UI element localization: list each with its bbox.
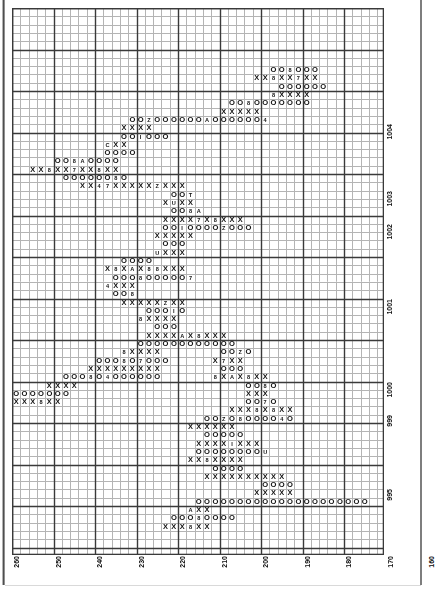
pattern-cell: O	[319, 83, 327, 91]
pattern-cell: X	[244, 473, 252, 481]
pattern-cell: O	[120, 274, 128, 282]
pattern-cell: A	[78, 157, 86, 165]
pattern-cell: 4	[278, 415, 286, 423]
pattern-cell: O	[137, 257, 145, 265]
pattern-cell: X	[228, 456, 236, 464]
pattern-cell: 4	[103, 282, 111, 290]
pattern-cell: O	[195, 448, 203, 456]
pattern-cell: X	[170, 265, 178, 273]
pattern-cell: O	[161, 274, 169, 282]
pattern-symbol-layer: OO8OOOXX8XX7XXOOOOOO8XXXXOO8OOOOOOOXXXXX…	[12, 8, 384, 555]
pattern-cell: X	[211, 440, 219, 448]
pattern-cell: O	[170, 323, 178, 331]
pattern-cell: 8	[244, 99, 252, 107]
pattern-cell: X	[253, 489, 261, 497]
column-label: 180	[345, 556, 352, 568]
pattern-cell: X	[228, 406, 236, 414]
pattern-cell: 8	[95, 166, 103, 174]
pattern-cell: O	[103, 157, 111, 165]
pattern-cell: 7	[137, 357, 145, 365]
pattern-cell: O	[78, 373, 86, 381]
pattern-cell: X	[220, 332, 228, 340]
pattern-cell: O	[170, 191, 178, 199]
pattern-cell: O	[253, 498, 261, 506]
row-label: 1001	[386, 299, 393, 315]
pattern-cell: X	[137, 365, 145, 373]
pattern-cell: 8	[112, 265, 120, 273]
pattern-cell: O	[261, 415, 269, 423]
pattern-cell: X	[203, 506, 211, 514]
pattern-cell: O	[153, 340, 161, 348]
pattern-cell: X	[294, 91, 302, 99]
pattern-cell: 8	[37, 398, 45, 406]
pattern-cell: X	[278, 91, 286, 99]
pattern-cell: X	[211, 357, 219, 365]
pattern-cell: O	[344, 498, 352, 506]
pattern-cell: O	[236, 99, 244, 107]
pattern-cell: X	[29, 166, 37, 174]
pattern-cell: I	[170, 307, 178, 315]
pattern-cell: X	[161, 523, 169, 531]
pattern-cell: X	[303, 91, 311, 99]
pattern-cell: X	[128, 348, 136, 356]
pattern-cell: X	[153, 299, 161, 307]
pattern-cell: X	[203, 523, 211, 531]
pattern-cell: O	[137, 373, 145, 381]
pattern-cell: O	[303, 99, 311, 107]
pattern-cell: O	[95, 157, 103, 165]
pattern-cell: O	[153, 274, 161, 282]
pattern-cell: O	[220, 498, 228, 506]
pattern-cell: X	[303, 74, 311, 82]
pattern-cell: X	[220, 440, 228, 448]
pattern-cell: X	[178, 232, 186, 240]
pattern-cell: X	[195, 423, 203, 431]
pattern-cell: O	[211, 514, 219, 522]
pattern-cell: O	[244, 415, 252, 423]
pattern-cell: 4	[261, 116, 269, 124]
pattern-cell: U	[153, 249, 161, 257]
pattern-cell: O	[186, 224, 194, 232]
pattern-cell: O	[178, 274, 186, 282]
pattern-cell: 8	[128, 290, 136, 298]
pattern-cell: X	[278, 489, 286, 497]
pattern-cell: X	[78, 166, 86, 174]
pattern-cell: 8	[253, 406, 261, 414]
pattern-cell: X	[29, 398, 37, 406]
pattern-cell: X	[145, 315, 153, 323]
pattern-cell: O	[303, 66, 311, 74]
pattern-cell: X	[220, 216, 228, 224]
pattern-cell: O	[161, 357, 169, 365]
pattern-cell: O	[62, 157, 70, 165]
pattern-cell: X	[253, 440, 261, 448]
pattern-cell: O	[112, 274, 120, 282]
pattern-cell: O	[153, 307, 161, 315]
pattern-cell: O	[161, 133, 169, 141]
pattern-cell: X	[87, 166, 95, 174]
pattern-cell: O	[120, 290, 128, 298]
pattern-cell: X	[269, 473, 277, 481]
pattern-cell: O	[211, 498, 219, 506]
pattern-cell: 8	[203, 456, 211, 464]
pattern-cell: O	[178, 116, 186, 124]
pattern-cell: O	[112, 373, 120, 381]
pattern-cell: X	[120, 365, 128, 373]
pattern-cell: O	[228, 514, 236, 522]
pattern-cell: O	[253, 116, 261, 124]
pattern-cell: 8	[137, 274, 145, 282]
pattern-cell: X	[62, 166, 70, 174]
row-label: 1003	[386, 191, 393, 207]
pattern-cell: O	[195, 116, 203, 124]
pattern-chart[interactable]: OO8OOOXX8XX7XXOOOOOO8XXXXOO8OOOOOOOXXXXX…	[12, 8, 384, 555]
pattern-cell: 8	[269, 91, 277, 99]
pattern-cell: O	[178, 207, 186, 215]
pattern-cell: O	[236, 448, 244, 456]
pattern-cell: 8	[211, 373, 219, 381]
pattern-cell: X	[178, 523, 186, 531]
pattern-cell: X	[236, 357, 244, 365]
pattern-cell: X	[261, 406, 269, 414]
column-label: 250	[55, 556, 62, 568]
pattern-cell: X	[195, 506, 203, 514]
pattern-cell: 8	[87, 373, 95, 381]
column-label: 190	[304, 556, 311, 568]
